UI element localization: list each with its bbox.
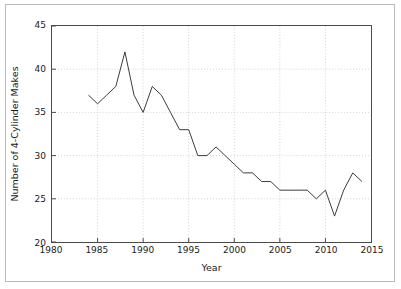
y-axis-title: Number of 4-Cylinder Makes bbox=[9, 66, 20, 201]
x-tick-label: 2000 bbox=[223, 246, 246, 255]
x-tick-label: 2005 bbox=[269, 246, 292, 255]
x-tick-label: 1990 bbox=[131, 246, 154, 255]
y-tick-label: 30 bbox=[22, 151, 46, 160]
data-series-group bbox=[88, 52, 361, 216]
x-tick-label: 1995 bbox=[177, 246, 200, 255]
chart-figure: 202530354045 198019851990199520002005201… bbox=[0, 0, 401, 289]
plot-area bbox=[51, 25, 372, 243]
y-tick-label: 35 bbox=[22, 108, 46, 117]
y-tick-label: 45 bbox=[22, 21, 46, 30]
x-tick-label: 1980 bbox=[40, 246, 63, 255]
gridlines bbox=[52, 26, 371, 242]
x-axis-title: Year bbox=[51, 262, 372, 273]
x-tick-label: 2015 bbox=[361, 246, 384, 255]
plot-canvas bbox=[52, 26, 371, 242]
x-tick-label: 2010 bbox=[315, 246, 338, 255]
y-tick-label: 40 bbox=[22, 64, 46, 73]
y-tick-label: 25 bbox=[22, 195, 46, 204]
data-line bbox=[88, 52, 361, 216]
x-tick-label: 1985 bbox=[85, 246, 108, 255]
